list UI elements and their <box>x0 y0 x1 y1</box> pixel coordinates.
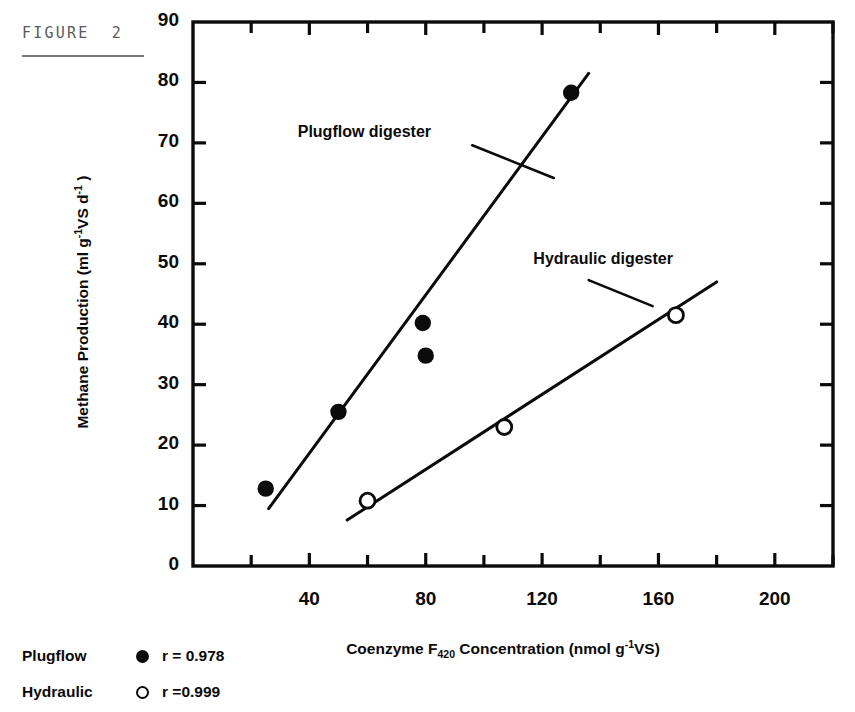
y-tick-label: 80 <box>0 69 179 91</box>
filled-circle-icon <box>122 650 162 663</box>
legend-row-hydraulic: Hydraulicr =0.999 <box>22 674 352 710</box>
chart-annotation-label: Plugflow digester <box>298 123 431 141</box>
plot-frame <box>193 22 833 566</box>
y-axis-title-pre: Methane Production (ml g <box>74 238 91 428</box>
y-tick-label: 0 <box>0 553 179 575</box>
data-point-plugflow <box>418 347 434 363</box>
y-axis-title-sup1: -1 <box>72 229 84 238</box>
data-point-plugflow <box>258 480 274 496</box>
data-point-hydraulic <box>668 308 683 323</box>
legend-series-name: Hydraulic <box>22 683 122 701</box>
legend-correlation-value: r = 0.978 <box>162 647 224 665</box>
x-tick-label: 120 <box>502 588 582 610</box>
y-axis-title-sup2: -1 <box>72 185 84 194</box>
trend-line-hydraulic <box>347 282 716 520</box>
y-tick-label: 10 <box>0 493 179 515</box>
y-tick-label: 90 <box>0 9 179 31</box>
data-point-plugflow <box>563 85 579 101</box>
legend-correlation-value: r =0.999 <box>162 683 220 701</box>
x-tick-label: 80 <box>386 588 466 610</box>
annotation-leader-line <box>589 280 653 306</box>
legend-series-name: Plugflow <box>22 647 122 665</box>
annotation-leader-lines <box>472 145 652 306</box>
x-axis-title-mid: Concentration (nmol g <box>455 640 625 657</box>
chart-plot-area: 0102030405060708090 4080120160200 Methan… <box>0 0 855 712</box>
y-axis-title-mid: VS d <box>74 194 91 228</box>
chart-annotation-label: Hydraulic digester <box>533 250 673 268</box>
legend-row-plugflow: Plugflowr = 0.978 <box>22 638 352 674</box>
legend-marker-glyph <box>136 686 149 699</box>
x-axis-title-post: VS) <box>634 640 660 657</box>
open-circle-icon <box>122 686 162 699</box>
x-tick-label: 160 <box>618 588 698 610</box>
chart-legend: Plugflowr = 0.978Hydraulicr =0.999 <box>22 638 352 710</box>
data-point-plugflow <box>415 315 431 331</box>
x-tick-label: 200 <box>735 588 815 610</box>
data-point-hydraulic <box>360 493 375 508</box>
data-points <box>258 85 684 509</box>
data-point-plugflow <box>330 404 346 420</box>
data-point-hydraulic <box>497 419 512 434</box>
y-axis-title: Methane Production (ml g-1VS d-1 ) <box>72 152 92 452</box>
axis-ticks <box>193 22 833 566</box>
y-axis-title-post: ) <box>74 176 91 185</box>
y-tick-label: 70 <box>0 130 179 152</box>
annotation-leader-line <box>472 145 553 178</box>
x-axis-title-pre: Coenzyme F <box>346 640 437 657</box>
x-axis-title-sup: -1 <box>625 638 634 650</box>
x-tick-label: 40 <box>269 588 349 610</box>
x-axis-title-sub: 420 <box>437 648 455 660</box>
legend-marker-glyph <box>136 650 149 663</box>
